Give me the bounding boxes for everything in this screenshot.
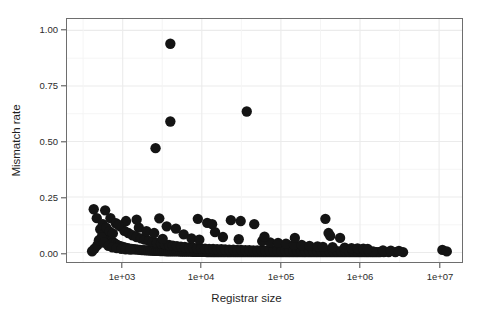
ytick-mark-1.00	[61, 29, 66, 30]
ytick-mark-0.00	[61, 253, 66, 254]
ytick-mark-0.25	[61, 197, 66, 198]
ytick-label-1.00: 1.00	[26, 25, 58, 35]
xtick-label-1e+05: 1e+05	[268, 272, 295, 282]
xtick-mark-1e+07	[439, 263, 440, 268]
xtick-mark-1e+05	[280, 263, 281, 268]
xtick-label-1e+07: 1e+07	[427, 272, 454, 282]
xtick-label-1e+04: 1e+04	[188, 272, 215, 282]
y-axis-title: Mismatch rate	[10, 18, 28, 263]
scatter-points	[67, 19, 462, 262]
xtick-label-1e+06: 1e+06	[347, 272, 374, 282]
ytick-label-0.25: 0.25	[26, 193, 58, 203]
xtick-mark-1e+03	[121, 263, 122, 268]
ytick-mark-0.75	[61, 85, 66, 86]
ytick-label-0.75: 0.75	[26, 81, 58, 91]
scatter-plot-figure: 1.00 0.75 0.50 0.25 0.00 1e+03 1e+04 1e+…	[0, 0, 493, 316]
xtick-label-1e+03: 1e+03	[109, 272, 136, 282]
ytick-mark-0.50	[61, 141, 66, 142]
xtick-mark-1e+04	[200, 263, 201, 268]
xtick-mark-1e+06	[359, 263, 360, 268]
x-axis-title: Registrar size	[0, 292, 493, 304]
ytick-label-0.00: 0.00	[26, 249, 58, 259]
plot-panel	[66, 18, 463, 263]
ytick-label-0.50: 0.50	[26, 137, 58, 147]
